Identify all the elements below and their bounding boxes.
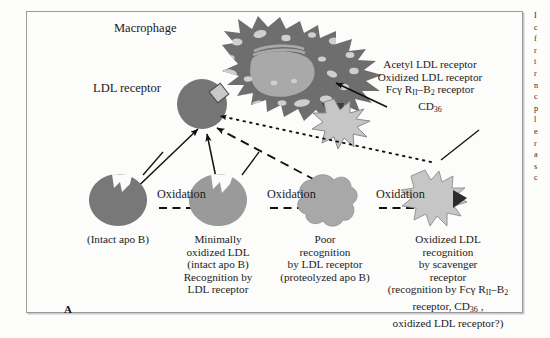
sliver-text-line: e xyxy=(534,126,550,138)
scavenger-receptor-list: Acetyl LDL receptor Oxidized LDL recepto… xyxy=(346,58,514,117)
oxidation-label-3: Oxidation xyxy=(376,189,425,200)
sliver-text-line: r xyxy=(534,138,550,150)
caption-paren-line-3: oxidized LDL receptor?) xyxy=(379,317,517,330)
caption-paren-line-2: receptor, CD36 , xyxy=(379,300,517,317)
caption-line: recognition xyxy=(267,246,383,259)
figure-canvas: Macrophage LDL receptor Acetyl LDL recep… xyxy=(0,0,550,338)
oxidation-label-2: Oxidation xyxy=(267,189,316,200)
caption-line: Oxidized LDL xyxy=(379,233,517,246)
panel-label-a: A xyxy=(64,303,72,315)
caption-line: by LDL receptor xyxy=(267,258,383,271)
caption-line: receptor xyxy=(379,271,517,284)
caption-poorly-recognized-ldl: Poor recognition by LDL receptor (proteo… xyxy=(267,233,383,283)
figure-frame: Macrophage LDL receptor Acetyl LDL recep… xyxy=(26,11,523,313)
ldl-receptor-label: LDL receptor xyxy=(93,83,161,94)
caption-minimally-oxidized-ldl: Minimally oxidized LDL (intact apo B) Re… xyxy=(166,233,270,296)
sliver-text-line: r xyxy=(534,68,550,80)
sliver-text-line: p xyxy=(534,103,550,115)
ldl-particle-intact xyxy=(84,172,152,228)
sliver-text-line: n xyxy=(534,80,550,92)
adjacent-text-column-sliver: Icfrtrncplerascstrr xyxy=(534,10,550,180)
sliver-text-line: t xyxy=(534,56,550,68)
caption-line: Poor xyxy=(267,233,383,246)
receptor-line-fcgamma: Fcγ RII–B2 receptor xyxy=(346,83,514,100)
caption-line: Minimally xyxy=(166,233,270,246)
sliver-text-line: a xyxy=(534,149,550,161)
sliver-text-line: c xyxy=(534,22,550,34)
caption-intact-ldl: (Intact apo B) xyxy=(66,233,170,246)
macrophage-label: Macrophage xyxy=(114,23,176,34)
caption-oxidized-ldl: Oxidized LDL recognition by scavenger re… xyxy=(379,233,517,330)
caption-line: Recognition by xyxy=(166,271,270,284)
caption-line: by scavenger xyxy=(379,258,517,271)
sliver-text-line: c xyxy=(534,91,550,103)
sliver-text-line: I xyxy=(534,10,550,22)
sliver-text-line: c xyxy=(534,172,550,180)
sliver-text-line: f xyxy=(534,33,550,45)
caption-paren-line-1: (recognition by Fcγ RII–B2 xyxy=(379,283,517,300)
receptor-line-oxidized: Oxidized LDL receptor xyxy=(346,71,514,84)
sliver-text-line: r xyxy=(534,45,550,57)
receptor-line-acetyl: Acetyl LDL receptor xyxy=(346,58,514,71)
caption-line: (proteolyzed apo B) xyxy=(267,271,383,284)
caption-line: (intact apo B) xyxy=(166,258,270,271)
caption-line: oxidized LDL xyxy=(166,246,270,259)
caption-line: (Intact apo B) xyxy=(66,233,170,246)
oxidation-label-1: Oxidation xyxy=(157,189,206,200)
sliver-text-line: s xyxy=(534,161,550,173)
caption-line: recognition xyxy=(379,246,517,259)
receptor-line-cd36: CD36 xyxy=(346,100,514,117)
sliver-text-line: l xyxy=(534,114,550,126)
caption-line: LDL receptor xyxy=(166,283,270,296)
ldl-particle-poorly-recognized xyxy=(289,172,361,230)
